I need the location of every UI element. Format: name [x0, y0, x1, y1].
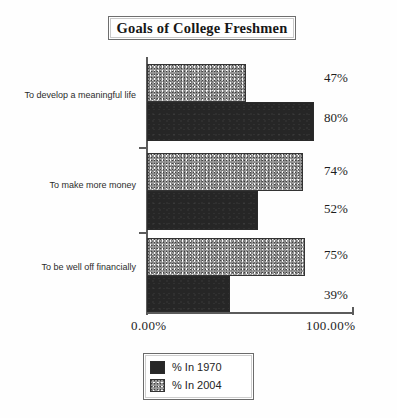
value-label-1970-meaningful-life: 80%	[324, 110, 348, 126]
value-label-2004-more-money: 74%	[324, 163, 348, 179]
value-label-2004-meaningful-life: 47%	[324, 70, 348, 86]
bar-2004-more-money	[147, 153, 303, 191]
legend-label-1970: % In 1970	[172, 361, 222, 373]
value-label-2004-well-off: 75%	[324, 247, 348, 263]
bar-1970-meaningful-life	[147, 102, 314, 141]
y-axis-tick-1	[139, 147, 147, 149]
page-title: Goals of College Freshmen	[116, 20, 287, 37]
x-axis-tick-100	[352, 307, 354, 315]
x-axis-line	[146, 312, 353, 314]
chart-title-box: Goals of College Freshmen	[108, 16, 296, 40]
legend-label-2004: % In 2004	[172, 379, 222, 391]
bar-2004-meaningful-life	[147, 64, 246, 102]
plot-area	[146, 57, 353, 312]
x-axis-label-max: 100.00%	[306, 318, 355, 334]
value-label-1970-well-off: 39%	[324, 287, 348, 303]
category-label-meaningful-life: To develop a meaningful life	[24, 90, 136, 100]
chart-image: Goals of College Freshmen To develop a m…	[0, 0, 397, 418]
category-label-well-off: To be well off financially	[42, 262, 136, 272]
legend-swatch-2004-icon	[150, 379, 165, 392]
bar-2004-well-off	[147, 238, 305, 276]
legend-swatch-1970-icon	[150, 361, 165, 374]
legend-item-1970: % In 1970	[150, 358, 247, 376]
legend-item-2004: % In 2004	[150, 376, 247, 394]
bar-1970-more-money	[147, 191, 258, 230]
bar-1970-well-off	[147, 276, 230, 312]
x-axis-label-min: 0.00%	[131, 318, 167, 334]
y-axis-tick-2	[139, 232, 147, 234]
value-label-1970-more-money: 52%	[324, 201, 348, 217]
category-label-more-money: To make more money	[49, 180, 136, 190]
chart-legend: % In 1970 % In 2004	[143, 353, 254, 400]
